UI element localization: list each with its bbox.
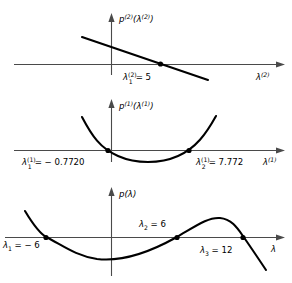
root-marker-top-1 [158, 61, 163, 66]
y-axis-arrowhead-middle [108, 99, 114, 108]
y-axis-arrowhead-bottom [108, 187, 114, 196]
x-axis-arrowhead-middle [276, 147, 285, 153]
y-axis-label-middle-sup: (1) [124, 100, 133, 107]
y-axis-label-bottom-arg-close: ) [132, 189, 136, 199]
root-marker-bottom-1 [43, 235, 48, 240]
root-label-middle-2-value: = 7.772 [209, 157, 244, 167]
root-label-bottom-3-sub: 3 [205, 250, 209, 257]
x-axis-label-bottom: λ [270, 244, 276, 254]
quadratic-polynomial-curve [82, 116, 216, 162]
y-axis-label-top-arg-sup: (2) [142, 13, 151, 20]
cubic-polynomial-curve [25, 211, 266, 270]
panel-top: p(2)(λ(2)) λ(2) λ(2)1= 5 [0, 0, 292, 92]
root-label-bottom-1: λ1= − 6 [2, 240, 40, 252]
root-label-middle-2-sub: 2 [202, 163, 206, 170]
panel-middle: p(1)(λ(1)) λ(1) λ(1)1= − 0.7720 λ(1)2= 7… [0, 92, 292, 184]
root-label-middle-1-sub: 1 [28, 163, 32, 170]
root-label-bottom-3: λ3= 12 [199, 245, 232, 257]
x-axis-arrowhead-top [276, 61, 285, 67]
root-label-middle-1-value: = − 0.7720 [35, 157, 85, 167]
y-axis-label-middle-arg-close: ) [149, 101, 153, 111]
x-axis-label-middle-sup: (1) [268, 156, 277, 163]
y-axis-arrowhead-top [108, 13, 114, 22]
root-label-bottom-3-value: = 12 [211, 245, 232, 255]
polynomial-roots-figure: p(2)(λ(2)) λ(2) λ(2)1= 5 p(1)(λ(1)) λ(1) [0, 0, 292, 283]
root-label-bottom-2: λ2= 6 [138, 219, 166, 231]
x-axis-arrowhead-bottom [276, 234, 285, 240]
y-axis-label-middle-arg: (λ [133, 101, 141, 111]
root-marker-middle-2 [186, 148, 191, 153]
root-marker-bottom-3 [240, 235, 245, 240]
root-label-bottom-1-value: = − 6 [14, 240, 39, 250]
root-label-bottom-1-sub: 1 [8, 245, 12, 252]
x-axis-label-bottom-base: λ [270, 244, 276, 254]
root-label-bottom-2-value: = 6 [150, 219, 165, 229]
y-axis-label-top-sup: (2) [124, 13, 133, 20]
root-marker-bottom-2 [174, 235, 179, 240]
y-axis-label-top-arg-close: ) [149, 14, 153, 24]
x-axis-label-top: λ(2) [255, 71, 270, 82]
y-axis-label-middle-arg-sup: (1) [142, 100, 151, 107]
y-axis-label-middle: p(1)(λ(1)) [118, 100, 154, 111]
x-axis-label-middle: λ(1) [262, 156, 277, 167]
root-label-middle-1: λ(1)1= − 0.7720 [21, 156, 85, 170]
y-axis-label-top-arg: (λ [133, 14, 141, 24]
root-label-bottom-2-sub: 2 [144, 224, 148, 231]
root-label-middle-2: λ(1)2= 7.772 [195, 156, 243, 170]
x-axis-label-top-sup: (2) [261, 71, 270, 78]
y-axis-label-bottom-arg: (λ [124, 189, 132, 199]
root-marker-middle-1 [105, 148, 110, 153]
root-label-top-1-sub: 1 [129, 78, 133, 85]
panel-bottom: p(λ) λ λ1= − 6 λ2= 6 λ3= 12 [0, 184, 292, 283]
root-label-top-1: λ(2)1= 5 [122, 71, 151, 85]
y-axis-label-bottom: p(λ) [118, 189, 136, 199]
y-axis-label-top: p(2)(λ(2)) [118, 13, 154, 24]
root-label-top-1-value: = 5 [136, 72, 151, 82]
